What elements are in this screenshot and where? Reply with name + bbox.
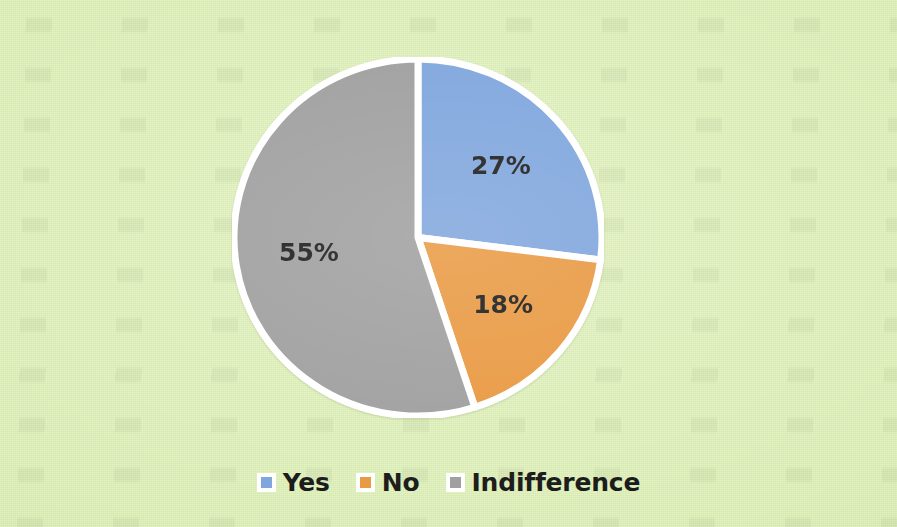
legend-swatch-yes <box>257 473 276 492</box>
pie-chart-figure: 27%18%55% YesNoIndifference <box>0 0 897 527</box>
legend-item-no[interactable]: No <box>356 470 420 495</box>
legend-label-no: No <box>382 470 420 495</box>
legend-item-yes[interactable]: Yes <box>257 470 330 495</box>
chart-legend: YesNoIndifference <box>0 470 897 495</box>
legend-swatch-indifference <box>446 473 465 492</box>
pie-chart-plot-area: 27%18%55% <box>232 57 604 418</box>
pie-data-label-no: 18% <box>473 290 533 319</box>
legend-swatch-no <box>356 473 375 492</box>
legend-label-indifference: Indifference <box>472 470 641 495</box>
legend-label-yes: Yes <box>283 470 330 495</box>
legend-item-indifference[interactable]: Indifference <box>446 470 641 495</box>
pie-data-label-indifference: 55% <box>279 238 339 267</box>
pie-data-label-yes: 27% <box>471 151 531 180</box>
pie-chart-svg: 27%18%55% <box>232 57 604 418</box>
